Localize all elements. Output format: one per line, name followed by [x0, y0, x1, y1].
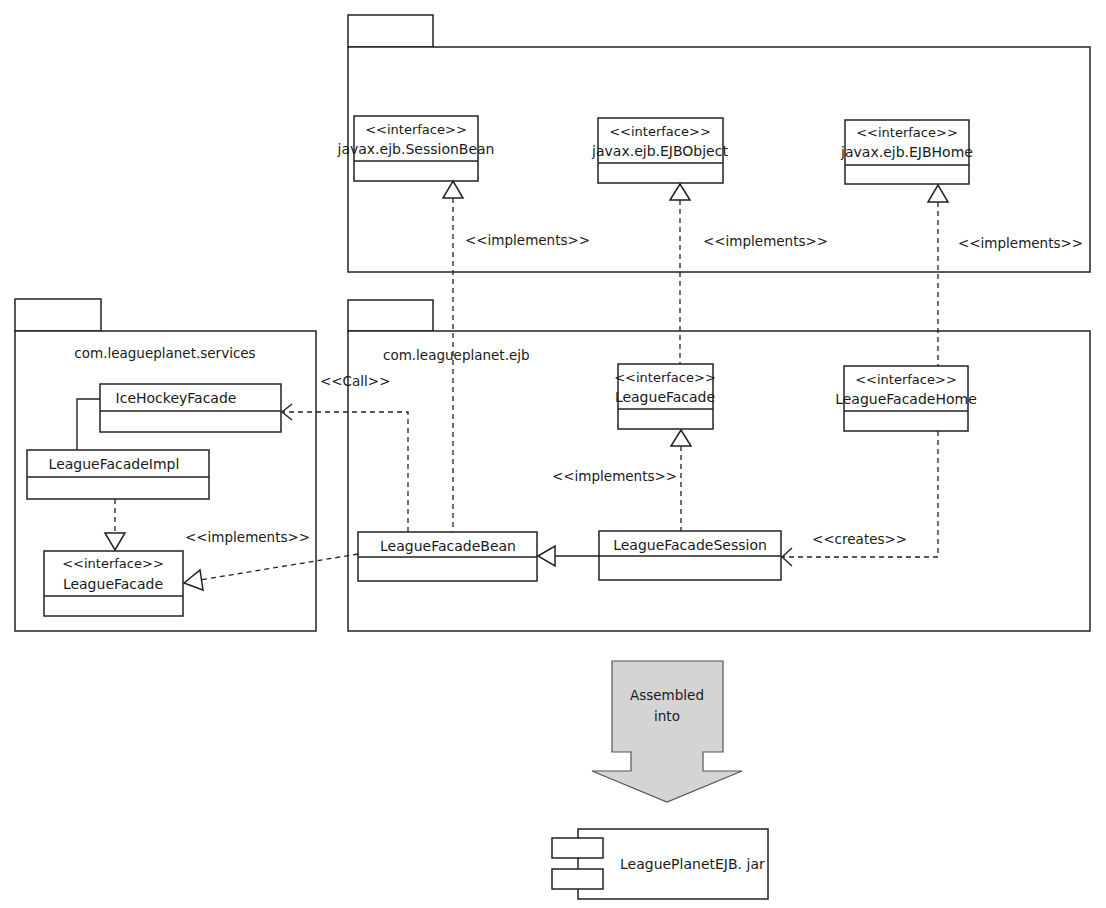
class-name: javax.ejb.SessionBean — [337, 141, 495, 157]
class-name: LeagueFacadeSession — [613, 537, 767, 553]
component-leagueplanetejb-jar[interactable]: LeaguePlanetEJB. jar — [552, 829, 768, 899]
component-name: LeaguePlanetEJB. jar — [620, 856, 765, 872]
stereotype-label: <<interface>> — [856, 125, 958, 140]
relation-label: <<Call>> — [320, 373, 390, 389]
package-name: com.leagueplanet.services — [74, 345, 255, 361]
class-name: LeagueFacade — [615, 389, 715, 405]
component-port-icon — [552, 838, 603, 858]
class-leaguefacadeimpl[interactable]: LeagueFacadeImpl — [27, 450, 209, 499]
component-port-icon — [552, 869, 603, 889]
relation-label: <<implements>> — [703, 233, 828, 249]
class-name: LeagueFacadeImpl — [49, 456, 180, 472]
arrow-label-line1: Assembled — [630, 687, 704, 703]
stereotype-label: <<interface>> — [62, 556, 164, 571]
package-body — [348, 331, 1090, 631]
package-tab — [15, 299, 101, 331]
assembled-into-arrow: Assembled into — [592, 661, 742, 802]
class-javax-ejb-sessionbean[interactable]: <<interface>> javax.ejb.SessionBean — [337, 116, 495, 181]
arrow-label-line2: into — [654, 708, 680, 724]
class-name: javax.ejb.EJBObject — [591, 143, 728, 159]
class-name: javax.ejb.EJBHome — [840, 144, 973, 160]
package-tab — [348, 15, 433, 47]
class-ejb-leaguefacade[interactable]: <<interface>> LeagueFacade — [614, 364, 716, 429]
class-leaguefacadebean[interactable]: LeagueFacadeBean — [358, 532, 537, 581]
stereotype-label: <<interface>> — [855, 372, 957, 387]
class-leaguefacadesession[interactable]: LeagueFacadeSession — [599, 531, 781, 580]
class-javax-ejb-ejbobject[interactable]: <<interface>> javax.ejb.EJBObject — [591, 118, 728, 183]
stereotype-label: <<interface>> — [614, 370, 716, 385]
class-services-leaguefacade[interactable]: <<interface>> LeagueFacade — [44, 551, 183, 616]
class-name: LeagueFacadeBean — [380, 538, 516, 554]
class-javax-ejb-ejbhome[interactable]: <<interface>> javax.ejb.EJBHome — [840, 120, 973, 184]
class-icehockeyfacade[interactable]: IceHockeyFacade — [100, 384, 281, 432]
relation-label: <<implements>> — [185, 529, 310, 545]
class-leaguefacadehome[interactable]: <<interface>> LeagueFacadeHome — [835, 366, 977, 431]
stereotype-label: <<interface>> — [609, 124, 711, 139]
relation-label: <<implements>> — [958, 235, 1083, 251]
class-name: LeagueFacade — [63, 576, 163, 592]
block-arrow-down-icon — [592, 661, 742, 802]
package-tab — [348, 300, 433, 331]
relation-label: <<implements>> — [552, 468, 677, 484]
relation-label: <<creates>> — [812, 531, 907, 547]
class-name: IceHockeyFacade — [116, 390, 237, 406]
stereotype-label: <<interface>> — [365, 122, 467, 137]
relation-label: <<implements>> — [465, 232, 590, 248]
class-name: LeagueFacadeHome — [835, 391, 977, 407]
package-name: com.leagueplanet.ejb — [383, 347, 530, 363]
